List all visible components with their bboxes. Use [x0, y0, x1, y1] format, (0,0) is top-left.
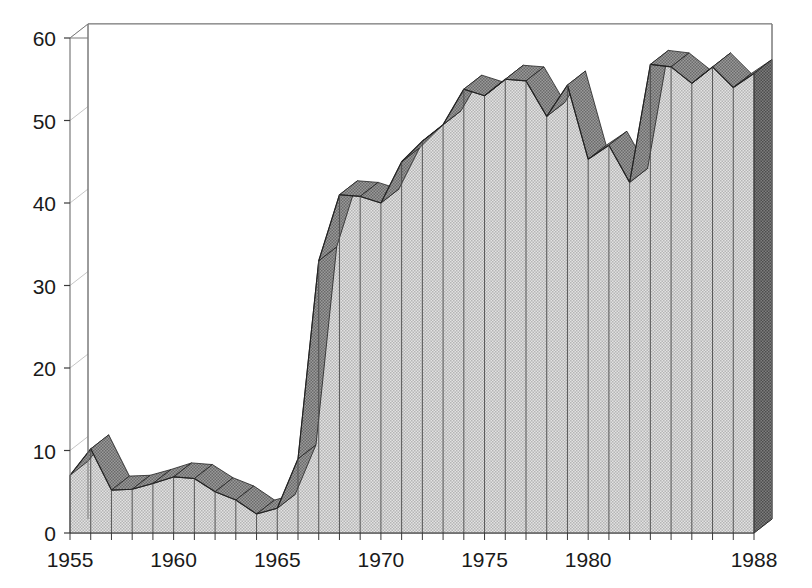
- y-axis-tick-label: 60: [33, 27, 56, 50]
- y-axis-tick-label: 0: [44, 522, 56, 545]
- y-axis-tick-label: 50: [33, 110, 56, 133]
- chart-container: 0102030405060 19551960196519701975198019…: [0, 0, 812, 588]
- x-axis-tick-label: 1960: [150, 548, 197, 571]
- x-axis-tick-label: 1955: [47, 548, 94, 571]
- x-axis-tick-label: 1975: [461, 548, 508, 571]
- y-axis-tick-label: 10: [33, 440, 56, 463]
- y-axis-tick-label: 30: [33, 275, 56, 298]
- y-axis-tick-label: 40: [33, 192, 56, 215]
- x-axis-tick-label: 1970: [358, 548, 405, 571]
- y-axis-tick-label: 20: [33, 357, 56, 380]
- x-axis-tick-label: 1965: [254, 548, 301, 571]
- area-chart: 0102030405060 19551960196519701975198019…: [0, 0, 812, 588]
- x-axis-tick-label: 1980: [565, 548, 612, 571]
- x-axis-tick-label: 1988: [731, 548, 778, 571]
